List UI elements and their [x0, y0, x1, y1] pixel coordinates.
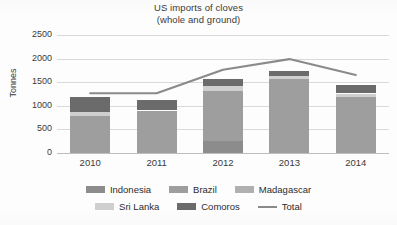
legend-item-label: Brazil [193, 184, 217, 195]
y-axis-tick-label: 1500 [8, 76, 52, 86]
x-axis-baseline [57, 153, 389, 154]
legend-row-primary: IndonesiaBrazilMadagascar [0, 181, 397, 198]
legend-line-marker [258, 206, 277, 208]
chart-legend: IndonesiaBrazilMadagascar Sri LankaComor… [0, 181, 397, 215]
legend-color-swatch [95, 203, 114, 210]
plot-area [57, 35, 389, 153]
legend-color-swatch [235, 186, 254, 193]
x-axis-tick-label: 2011 [127, 157, 187, 168]
legend-row-secondary: Sri LankaComorosTotal [0, 198, 397, 215]
legend-item-label: Sri Lanka [119, 201, 159, 212]
legend-item-label: Madagascar [259, 184, 311, 195]
x-axis-tick-label: 2013 [259, 157, 319, 168]
x-axis-tick-label: 2010 [60, 157, 120, 168]
legend-item[interactable]: Brazil [169, 184, 217, 195]
y-axis-tick-label: 0 [8, 147, 52, 157]
y-axis-tick-label: 1000 [8, 100, 52, 110]
legend-color-swatch [86, 186, 105, 193]
y-axis-tick-label: 2500 [8, 29, 52, 39]
x-axis-tick-label: 2012 [193, 157, 253, 168]
chart-title: US imports of cloves (whole and ground) [0, 2, 397, 26]
y-axis-tick-label: 500 [8, 123, 52, 133]
x-axis-tick-label: 2014 [326, 157, 386, 168]
chart-title-line1: US imports of cloves [154, 2, 243, 13]
y-axis-tick-label: 2000 [8, 53, 52, 63]
legend-item-label: Indonesia [110, 184, 151, 195]
total-line-series [57, 35, 389, 153]
legend-item[interactable]: Madagascar [235, 184, 311, 195]
legend-item[interactable]: Indonesia [86, 184, 151, 195]
clove-imports-chart: US imports of cloves (whole and ground) … [0, 0, 397, 225]
chart-title-line2: (whole and ground) [0, 14, 397, 26]
legend-item[interactable]: Comoros [177, 201, 240, 212]
legend-color-swatch [177, 203, 196, 210]
legend-item-label: Comoros [201, 201, 240, 212]
legend-item[interactable]: Sri Lanka [95, 201, 159, 212]
legend-item-label: Total [282, 201, 302, 212]
legend-color-swatch [169, 186, 188, 193]
legend-item[interactable]: Total [258, 201, 302, 212]
